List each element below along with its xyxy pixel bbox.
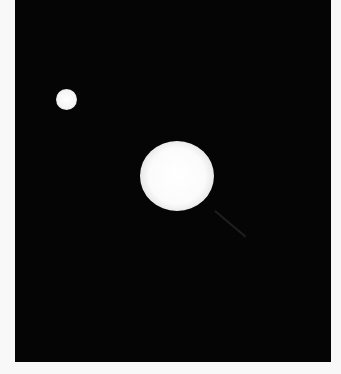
primary-star: [140, 141, 214, 211]
companion-star: [56, 89, 77, 110]
sky-photo: [15, 0, 331, 362]
faint-streak: [214, 210, 246, 237]
